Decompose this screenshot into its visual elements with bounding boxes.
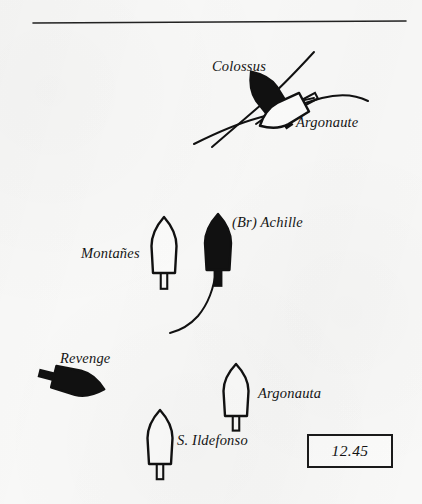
- ship-stern-rudder: [233, 415, 240, 431]
- achille-wake: [170, 270, 216, 333]
- ship-label-argonaute: Argonaute: [296, 114, 358, 131]
- ship-br-achille: [205, 214, 231, 286]
- ship-label-colossus: Colossus: [212, 58, 266, 75]
- ship-revenge: [37, 361, 108, 401]
- ship-hull: [152, 217, 177, 273]
- top-horizontal-rule: [33, 21, 406, 23]
- ship-hull: [205, 214, 231, 270]
- ship-group: [37, 65, 322, 480]
- ship-label-revenge: Revenge: [60, 350, 111, 367]
- time-stamp-box: 12.45: [307, 434, 393, 468]
- ship-monta-es: [152, 217, 177, 289]
- ship-hull: [224, 364, 249, 416]
- ship-stern-rudder: [157, 463, 164, 479]
- diagram-page: ColossusArgonaute(Br) AchilleMontañesRev…: [0, 0, 422, 504]
- ship-label-s-ildefonso: S. Ildefonso: [177, 432, 248, 449]
- ship-label-monta-es: Montañes: [81, 245, 140, 262]
- diagram-canvas: [0, 0, 422, 504]
- ship-s-ildefonso: [148, 410, 173, 479]
- time-stamp-value: 12.45: [332, 442, 369, 460]
- ship-hull: [51, 365, 108, 402]
- ship-label-br-achille: (Br) Achille: [232, 214, 303, 231]
- ship-label-argonauta: Argonauta: [258, 385, 321, 402]
- ship-stern-rudder: [215, 269, 222, 286]
- ship-hull: [148, 410, 173, 464]
- ship-argonauta: [224, 364, 249, 431]
- ship-stern-rudder: [161, 272, 168, 289]
